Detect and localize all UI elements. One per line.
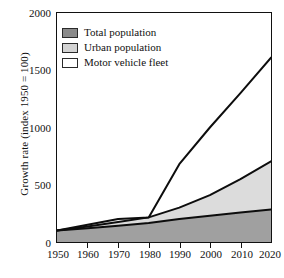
legend-label-urban-population: Urban population — [84, 42, 161, 53]
chart-legend: Total population Urban population Motor … — [62, 26, 168, 69]
legend-label-total-population: Total population — [84, 27, 156, 38]
legend-swatch-motor-vehicle-fleet — [62, 58, 78, 68]
chart-figure: Growth rate (index 1950 = 100) 2000 1500… — [0, 0, 284, 278]
y-tick-label-0: 0 — [17, 238, 51, 248]
legend-item-motor-vehicle-fleet: Motor vehicle fleet — [62, 56, 168, 69]
y-tick-label-500: 500 — [17, 180, 51, 190]
x-tick-label-2020: 2020 — [250, 248, 284, 260]
y-tick-label-1000: 1000 — [17, 123, 51, 133]
legend-swatch-urban-population — [62, 43, 78, 53]
legend-item-urban-population: Urban population — [62, 41, 168, 54]
y-tick-label-1500: 1500 — [17, 65, 51, 75]
legend-item-total-population: Total population — [62, 26, 168, 39]
legend-swatch-total-population — [62, 28, 78, 38]
y-tick-label-2000: 2000 — [17, 8, 51, 18]
area-series-group — [57, 58, 271, 242]
legend-label-motor-vehicle-fleet: Motor vehicle fleet — [84, 57, 168, 68]
